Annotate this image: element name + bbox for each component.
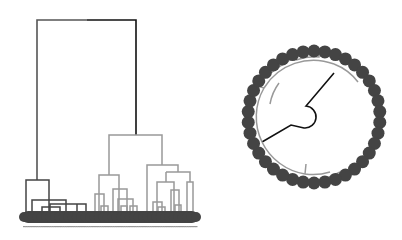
leaf-label xyxy=(136,226,139,227)
leaf-label xyxy=(88,226,91,227)
leaf-label xyxy=(128,226,131,227)
leaf-label xyxy=(114,226,117,227)
leaf-label xyxy=(134,226,137,227)
leaf-label xyxy=(90,226,93,227)
leaf-label xyxy=(99,226,102,227)
leaf-label xyxy=(47,226,50,227)
leaf-label xyxy=(188,226,191,227)
dendrogram-link xyxy=(305,164,330,175)
dendrogram-link xyxy=(50,204,86,212)
leaf-label xyxy=(64,226,67,227)
leaf-label xyxy=(158,226,161,227)
leaf-label xyxy=(123,226,126,227)
leaf-label xyxy=(117,226,120,227)
leaf-node xyxy=(297,45,310,58)
leaf-label xyxy=(77,226,80,227)
leaf-label xyxy=(151,226,154,227)
leaf-label xyxy=(27,226,30,227)
dendrogram-link xyxy=(109,135,162,175)
leaf-label xyxy=(147,226,150,227)
leaf-label xyxy=(45,226,48,227)
dendrogram-link xyxy=(113,189,127,212)
leaf-label xyxy=(169,226,172,227)
leaf-label xyxy=(130,226,133,227)
leaf-label xyxy=(106,226,109,227)
leaf-label xyxy=(51,226,54,227)
leaf-label xyxy=(73,226,76,227)
leaf-label xyxy=(38,226,41,227)
circular-dendrogram-leaves xyxy=(242,45,387,190)
leaf-label xyxy=(132,226,135,227)
leaf-label xyxy=(191,226,194,227)
rectangular-dendrogram-links xyxy=(26,20,193,212)
leaf-label xyxy=(58,226,61,227)
dendrogram-link xyxy=(187,182,193,212)
leaf-label xyxy=(53,226,56,227)
leaf-label xyxy=(149,226,152,227)
leaf-label xyxy=(101,226,104,227)
leaf-label xyxy=(104,226,107,227)
leaf-label xyxy=(184,226,187,227)
leaf-label xyxy=(32,226,35,227)
leaf-label xyxy=(62,226,65,227)
dendrogram-figure xyxy=(0,0,402,240)
leaf-label xyxy=(49,226,52,227)
leaf-label xyxy=(56,226,59,227)
leaf-label xyxy=(95,226,98,227)
leaf-label xyxy=(43,226,46,227)
dendrogram-link xyxy=(270,83,279,104)
leaf-label xyxy=(97,226,100,227)
leaf-label xyxy=(25,226,28,227)
dendrogram-link xyxy=(87,20,136,135)
leaf-label xyxy=(84,226,87,227)
dendrogram-link xyxy=(166,172,190,182)
leaf-label xyxy=(80,226,83,227)
dendrogram-link xyxy=(262,73,334,142)
leaf-label xyxy=(71,226,74,227)
dendrogram-link xyxy=(37,20,87,180)
leaf-label xyxy=(182,226,185,227)
leaf-label xyxy=(160,226,163,227)
leaf-label xyxy=(141,226,144,227)
leaf-label xyxy=(23,226,26,227)
leaf-label xyxy=(110,226,113,227)
leaf-label xyxy=(67,226,70,227)
leaf-label xyxy=(167,226,170,227)
leaf-label xyxy=(93,226,96,227)
leaf-label xyxy=(86,226,89,227)
leaf-label xyxy=(40,226,43,227)
leaf-label xyxy=(145,226,148,227)
leaf-label xyxy=(60,226,63,227)
leaf-label xyxy=(119,226,122,227)
leaf-label xyxy=(156,226,159,227)
leaf-label xyxy=(138,226,141,227)
leaf-label xyxy=(30,226,33,227)
leaf-label xyxy=(143,226,146,227)
leaf-label xyxy=(75,226,78,227)
leaf-label xyxy=(178,226,181,227)
dendrogram-link xyxy=(175,205,181,212)
leaf-label xyxy=(121,226,124,227)
leaf-label xyxy=(195,226,198,227)
leaf-label xyxy=(154,226,157,227)
leaf-label xyxy=(82,226,85,227)
leaf-label xyxy=(180,226,183,227)
leaf-label xyxy=(125,226,128,227)
leaf-label xyxy=(36,226,39,227)
leaf-label xyxy=(69,226,72,227)
leaf-label xyxy=(186,226,189,227)
rectangular-dendrogram-leaves xyxy=(19,211,201,227)
leaf-label xyxy=(173,226,176,227)
leaf-node xyxy=(191,212,201,222)
leaf-label xyxy=(162,226,165,227)
leaf-label xyxy=(193,226,196,227)
leaf-label xyxy=(112,226,115,227)
leaf-label xyxy=(175,226,178,227)
leaf-label xyxy=(108,226,111,227)
leaf-label xyxy=(171,226,174,227)
leaf-label xyxy=(165,226,168,227)
leaf-label xyxy=(34,226,37,227)
